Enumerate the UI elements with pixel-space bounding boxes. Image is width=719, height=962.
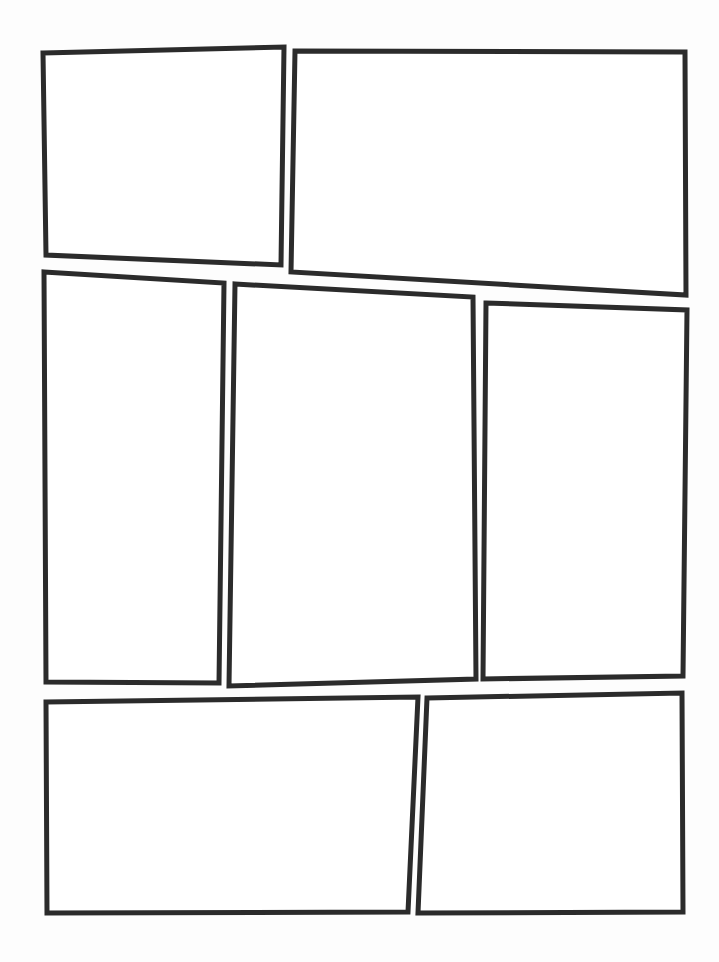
comic-panel-5[interactable] <box>483 303 687 679</box>
comic-panel-1[interactable] <box>43 47 284 265</box>
comic-page: Blank Comic Book Page Template <box>0 0 719 962</box>
comic-panel-6[interactable] <box>46 697 418 913</box>
comic-panel-4[interactable] <box>229 284 476 686</box>
comic-panel-2[interactable] <box>291 51 686 295</box>
comic-panel-layout <box>0 0 719 962</box>
comic-panel-7[interactable] <box>418 693 683 913</box>
comic-panel-3[interactable] <box>44 272 224 683</box>
